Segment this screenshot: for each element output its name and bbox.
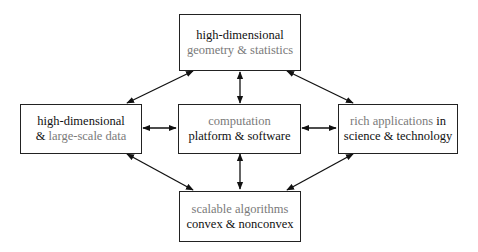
node-text: science & technology	[344, 129, 452, 143]
edge-top-left	[127, 71, 193, 103]
node-top-line2: geometry & statistics	[187, 43, 293, 58]
node-text: large-scale data	[49, 129, 127, 143]
node-bottom: scalable algorithms convex & nonconvex	[179, 191, 301, 242]
node-center-line1: computation	[208, 114, 271, 129]
node-text: high-dimensional	[196, 28, 284, 42]
node-right-line2: science & technology	[344, 129, 452, 144]
node-text: in	[436, 114, 446, 128]
node-left: high-dimensional & large-scale data	[20, 104, 142, 154]
node-top-line1: high-dimensional	[196, 28, 284, 43]
node-text: high-dimensional	[37, 114, 125, 128]
node-left-line1: high-dimensional	[37, 114, 125, 129]
node-center-line2: platform & software	[188, 129, 290, 144]
node-left-line2: & large-scale data	[36, 129, 127, 144]
node-bottom-line2: convex & nonconvex	[187, 217, 294, 232]
node-bottom-line1: scalable algorithms	[192, 202, 289, 217]
edge-top-right	[287, 71, 353, 103]
node-text: platform & software	[188, 129, 290, 143]
node-text: rich applications	[350, 114, 436, 128]
node-text: geometry & statistics	[187, 43, 293, 57]
node-text: &	[36, 129, 49, 143]
node-right: rich applications in science & technolog…	[338, 104, 458, 154]
node-right-line1: rich applications in	[350, 114, 446, 129]
node-center: computation platform & software	[178, 104, 301, 154]
node-text: convex & nonconvex	[187, 217, 294, 231]
node-text: computation	[208, 114, 271, 128]
node-top: high-dimensional geometry & statistics	[179, 14, 301, 71]
edge-left-bottom	[127, 154, 193, 190]
node-text: scalable algorithms	[192, 202, 289, 216]
edge-right-bottom	[287, 154, 353, 190]
